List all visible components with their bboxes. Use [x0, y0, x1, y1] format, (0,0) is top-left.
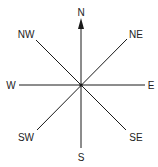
label-s: S — [78, 152, 85, 163]
label-w: W — [6, 80, 16, 91]
north-arrow-icon — [78, 18, 84, 29]
compass-rose: N NE E SE S SW W NW — [0, 0, 158, 167]
label-n: N — [77, 7, 84, 18]
label-ne: NE — [129, 29, 143, 40]
label-sw: SW — [18, 132, 35, 143]
label-se: SE — [129, 132, 143, 143]
compass-rose-graphic: N NE E SE S SW W NW — [0, 0, 158, 167]
label-e: E — [148, 80, 155, 91]
label-nw: NW — [18, 29, 35, 40]
center-point — [79, 83, 82, 86]
